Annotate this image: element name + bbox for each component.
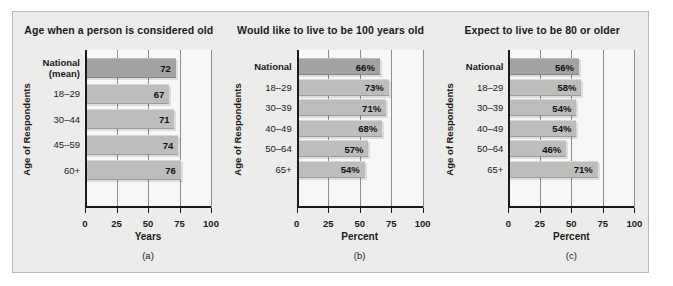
x-tick-50 bbox=[148, 208, 149, 213]
x-tick-label-50: 50 bbox=[143, 218, 154, 229]
bar-row: 65+71% bbox=[508, 161, 634, 178]
chart-title-b: Would like to live to be 100 years old bbox=[225, 24, 437, 36]
bar-value-label: 72 bbox=[160, 63, 171, 74]
category-label-line: 65+ bbox=[487, 164, 503, 175]
x-tick-label-25: 25 bbox=[535, 218, 546, 229]
bar-value-label: 66% bbox=[356, 61, 375, 72]
category-label: 30–39 bbox=[477, 102, 503, 113]
category-label-line: (mean) bbox=[43, 68, 80, 79]
category-label-line: 40–49 bbox=[265, 123, 291, 134]
chart-title-a: Age when a person is considered old bbox=[13, 24, 225, 36]
bar[interactable]: 72 bbox=[85, 58, 176, 78]
bar-row: 60+76 bbox=[85, 160, 211, 180]
category-label: 30–39 bbox=[265, 102, 291, 113]
y-axis-label-text-c: Age of Respondents bbox=[444, 83, 455, 175]
x-tick-50 bbox=[571, 208, 572, 213]
gridline-100 bbox=[423, 50, 424, 208]
bar-value-label: 57% bbox=[344, 143, 363, 154]
category-label: 50–64 bbox=[265, 143, 291, 154]
category-label: 18–29 bbox=[477, 82, 503, 93]
x-tick-label-100: 100 bbox=[626, 218, 642, 229]
x-tick-label-25: 25 bbox=[111, 218, 122, 229]
category-label-line: 30–39 bbox=[477, 102, 503, 113]
category-label: 65+ bbox=[487, 164, 503, 175]
bar-value-label: 73% bbox=[365, 82, 384, 93]
bar-row: 30–4471 bbox=[85, 109, 211, 129]
bar-row: National66% bbox=[297, 58, 423, 75]
y-axis-label-b: Age of Respondents bbox=[231, 50, 245, 208]
bar-value-label: 68% bbox=[358, 123, 377, 134]
bar-row: 65+54% bbox=[297, 161, 423, 178]
panel-container: Age when a person is considered old Age … bbox=[13, 12, 648, 272]
category-label-line: National bbox=[43, 57, 80, 68]
x-tick-label-50: 50 bbox=[354, 218, 365, 229]
bar[interactable]: 54% bbox=[297, 161, 365, 178]
chart-panel-a: Age when a person is considered old Age … bbox=[13, 12, 225, 272]
x-tick-50 bbox=[360, 208, 361, 213]
y-axis-label-text-a: Age of Respondents bbox=[21, 83, 32, 175]
bar[interactable]: 74 bbox=[85, 135, 178, 155]
category-label-line: 40–49 bbox=[477, 123, 503, 134]
category-label-line: 60+ bbox=[64, 165, 80, 176]
bar[interactable]: 54% bbox=[508, 120, 576, 137]
bars-b: National66%18–2973%30–3971%40–4968%50–64… bbox=[297, 50, 423, 208]
category-label: 50–64 bbox=[477, 143, 503, 154]
x-tick-0 bbox=[508, 208, 509, 213]
bar[interactable]: 76 bbox=[85, 160, 181, 180]
bar-row: 40–4968% bbox=[297, 120, 423, 137]
chart-title-c: Expect to live to be 80 or older bbox=[436, 24, 648, 36]
bar-value-label: 74 bbox=[163, 139, 174, 150]
category-label: 65+ bbox=[276, 164, 292, 175]
chart-panel-b: Would like to live to be 100 years old A… bbox=[225, 12, 437, 272]
x-tick-label-0: 0 bbox=[506, 218, 511, 229]
bar-row: 50–6457% bbox=[297, 140, 423, 157]
x-tick-label-50: 50 bbox=[566, 218, 577, 229]
bar-value-label: 56% bbox=[555, 61, 574, 72]
bar[interactable]: 73% bbox=[297, 79, 389, 96]
bar[interactable]: 58% bbox=[508, 79, 581, 96]
bar[interactable]: 54% bbox=[508, 99, 576, 116]
x-axis-label-a: Years bbox=[85, 231, 211, 242]
bar[interactable]: 56% bbox=[508, 58, 579, 75]
plot-area-a: National(mean)7218–296730–447145–597460+… bbox=[85, 50, 211, 208]
x-tick-25 bbox=[540, 208, 541, 213]
x-tick-label-25: 25 bbox=[323, 218, 334, 229]
bar-row: 18–2973% bbox=[297, 79, 423, 96]
x-tick-25 bbox=[328, 208, 329, 213]
bar-value-label: 67 bbox=[154, 88, 165, 99]
chart-panel-c: Expect to live to be 80 or older Age of … bbox=[436, 12, 648, 272]
bar[interactable]: 71 bbox=[85, 109, 174, 129]
bar[interactable]: 68% bbox=[297, 120, 383, 137]
chart-caption-a: (a) bbox=[85, 250, 211, 261]
bar[interactable]: 57% bbox=[297, 140, 369, 157]
category-label-line: 45–59 bbox=[54, 139, 80, 150]
bar[interactable]: 66% bbox=[297, 58, 380, 75]
x-axis-label-b: Percent bbox=[297, 231, 423, 242]
bar-row: National56% bbox=[508, 58, 634, 75]
x-tick-label-100: 100 bbox=[203, 218, 219, 229]
x-tick-label-75: 75 bbox=[386, 218, 397, 229]
y-axis-line-b bbox=[297, 50, 299, 208]
x-tick-75 bbox=[603, 208, 604, 213]
chart-caption-b: (b) bbox=[297, 250, 423, 261]
y-axis-line-c bbox=[508, 50, 510, 208]
bar-value-label: 76 bbox=[165, 165, 176, 176]
category-label-line: 50–64 bbox=[265, 143, 291, 154]
category-label-line: 50–64 bbox=[477, 143, 503, 154]
bar[interactable]: 46% bbox=[508, 140, 566, 157]
x-tick-label-75: 75 bbox=[598, 218, 609, 229]
x-tick-label-75: 75 bbox=[174, 218, 185, 229]
x-tick-100 bbox=[211, 208, 212, 213]
bar[interactable]: 67 bbox=[85, 84, 169, 104]
bars-a: National(mean)7218–296730–447145–597460+… bbox=[85, 50, 211, 208]
plot-area-c: National56%18–2958%30–3954%40–4954%50–64… bbox=[508, 50, 634, 208]
bar-value-label: 58% bbox=[557, 82, 576, 93]
x-tick-0 bbox=[297, 208, 298, 213]
bar-row: 30–3954% bbox=[508, 99, 634, 116]
bar[interactable]: 71% bbox=[508, 161, 597, 178]
category-label: National(mean) bbox=[43, 57, 80, 79]
bar-row: 18–2967 bbox=[85, 84, 211, 104]
plot-area-b: National66%18–2973%30–3971%40–4968%50–64… bbox=[297, 50, 423, 208]
category-label-line: 65+ bbox=[276, 164, 292, 175]
bar[interactable]: 71% bbox=[297, 99, 386, 116]
